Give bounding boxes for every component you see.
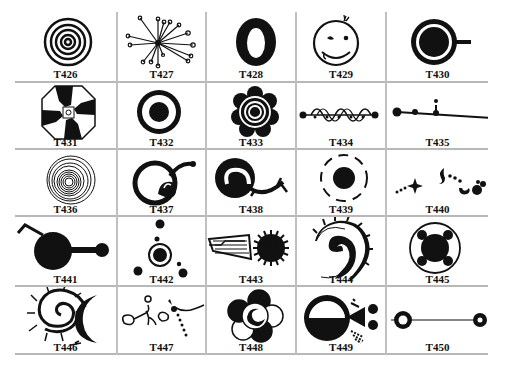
symbol-code: T441 <box>15 273 116 285</box>
symbol-cell-t436: T436 <box>15 150 116 215</box>
symbol-cell-t434: T434 <box>297 83 385 148</box>
symbol-cell-t435: T435 <box>387 83 488 148</box>
symbol-code: T442 <box>118 273 205 285</box>
symbol-cell-t443: T443 <box>207 217 295 285</box>
symbol-code: T446 <box>15 341 116 353</box>
symbol-code: T435 <box>387 136 488 148</box>
symbol-code: T429 <box>297 68 385 80</box>
symbol-cell-t426: T426 <box>15 12 116 81</box>
symbol-code: T447 <box>118 341 205 353</box>
symbol-cell-t430: T430 <box>387 12 488 81</box>
symbol-code: T444 <box>297 273 385 285</box>
symbol-code: T427 <box>118 68 205 80</box>
symbol-code: T431 <box>15 136 116 148</box>
symbol-cell-t444: T444 <box>297 217 385 285</box>
symbol-code: T433 <box>207 136 295 148</box>
symbol-code: T439 <box>297 203 385 215</box>
symbol-code: T443 <box>207 273 295 285</box>
symbol-code: T430 <box>387 68 488 80</box>
symbol-cell-t431: T431 <box>15 83 116 148</box>
symbol-cell-t441: T441 <box>15 217 116 285</box>
symbol-cell-t448: T448 <box>207 287 295 353</box>
symbol-code: T434 <box>297 136 385 148</box>
symbol-cell-t439: T439 <box>297 150 385 215</box>
symbol-cell-t432: T432 <box>118 83 205 148</box>
symbol-code: T440 <box>387 203 488 215</box>
symbol-code: T428 <box>207 68 295 80</box>
symbol-table: T426 T427 T428 T429 <box>15 12 488 354</box>
symbol-code: T426 <box>15 68 116 80</box>
symbol-code: T438 <box>207 203 295 215</box>
symbol-cell-t427: T427 <box>118 12 205 81</box>
symbol-code: T437 <box>118 203 205 215</box>
symbol-code: T436 <box>15 203 116 215</box>
symbol-cell-t433: T433 <box>207 83 295 148</box>
symbol-cell-t428: T428 <box>207 12 295 81</box>
symbol-cell-t440: T440 <box>387 150 488 215</box>
symbol-cell-t442: T442 <box>118 217 205 285</box>
row-divider <box>15 353 488 355</box>
symbol-code: T450 <box>387 341 488 353</box>
symbol-cell-t450: T450 <box>387 287 488 353</box>
symbol-cell-t446: T446 <box>15 287 116 353</box>
symbol-cell-t438: T438 <box>207 150 295 215</box>
symbol-cell-t429: T429 <box>297 12 385 81</box>
symbol-cell-t445: T445 <box>387 217 488 285</box>
symbol-code: T448 <box>207 341 295 353</box>
symbol-cell-t447: T447 <box>118 287 205 353</box>
symbol-code: T449 <box>297 341 385 353</box>
symbol-code: T445 <box>387 273 488 285</box>
symbol-code: T432 <box>118 136 205 148</box>
symbol-cell-t437: T437 <box>118 150 205 215</box>
symbol-cell-t449: T449 <box>297 287 385 353</box>
